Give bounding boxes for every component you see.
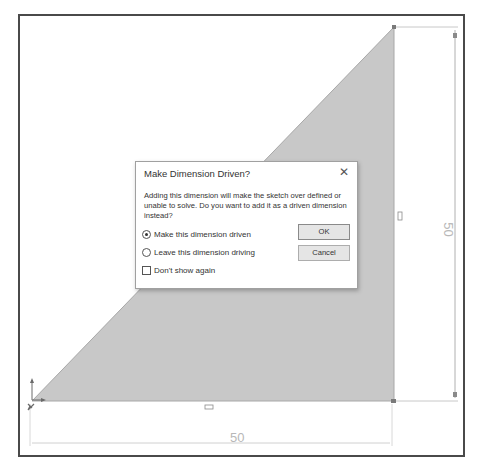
- ok-button[interactable]: OK: [298, 224, 350, 240]
- dont-show-again-checkbox[interactable]: [142, 266, 151, 275]
- horizontal-dimension-label[interactable]: 50: [230, 430, 244, 445]
- cancel-button[interactable]: Cancel: [298, 245, 350, 261]
- vertical-dimension-arrow-bottom: [453, 392, 457, 397]
- radio-leave-driving[interactable]: [142, 248, 151, 257]
- make-dimension-driven-dialog: Make Dimension Driven? ✕ Adding this dim…: [135, 161, 358, 289]
- radio-make-driven[interactable]: [142, 230, 151, 239]
- horizontal-relation-icon[interactable]: [205, 405, 213, 409]
- dialog-title: Make Dimension Driven?: [144, 168, 250, 179]
- vertical-relation-icon[interactable]: [398, 212, 402, 220]
- option-leave-driving-label: Leave this dimension driving: [154, 248, 255, 257]
- origin-fixed-icon: [28, 404, 34, 410]
- bottom-right-point[interactable]: [391, 399, 396, 403]
- close-icon[interactable]: ✕: [339, 165, 349, 179]
- dialog-message: Adding this dimension will make the sket…: [144, 191, 354, 221]
- option-leave-driving[interactable]: Leave this dimension driving: [142, 248, 255, 257]
- dont-show-again-label: Don't show again: [154, 266, 215, 275]
- origin-y-arrow-icon: [30, 378, 34, 383]
- dont-show-again[interactable]: Don't show again: [142, 266, 215, 275]
- option-make-driven-label: Make this dimension driven: [154, 230, 251, 239]
- vertical-dimension-arrow-top: [453, 33, 457, 38]
- apex-point[interactable]: [392, 25, 396, 29]
- sketch-canvas[interactable]: 50 50 Make Dimension Driven? ✕ Adding th…: [0, 0, 485, 473]
- option-make-driven[interactable]: Make this dimension driven: [142, 230, 251, 239]
- vertical-dimension-label[interactable]: 50: [441, 222, 456, 236]
